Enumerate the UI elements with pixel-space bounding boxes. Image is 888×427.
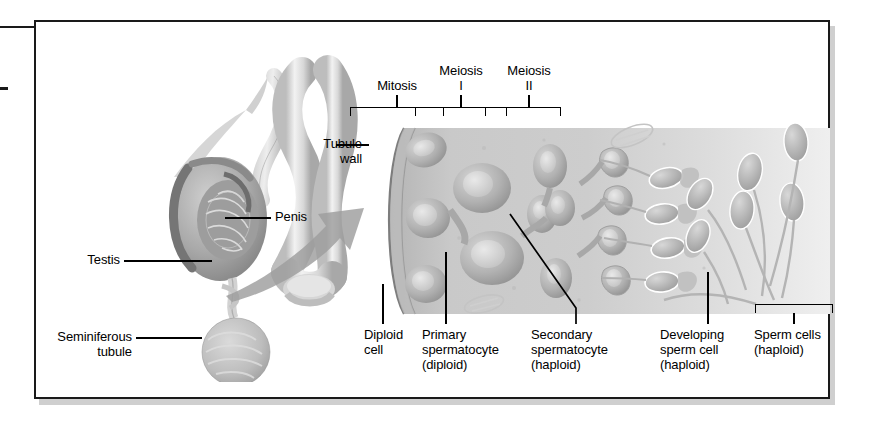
page-rule-horizontal bbox=[0, 26, 36, 28]
diploid-cells bbox=[401, 127, 451, 303]
seminiferous-tubule-leader-line bbox=[136, 337, 202, 339]
label-diploid-cell: Diploid cell bbox=[364, 327, 422, 357]
figure-frame: Penis Testis Seminiferous tubule bbox=[34, 20, 830, 399]
mitosis-bracket-stem bbox=[396, 95, 398, 107]
meiosis-ii-bracket-stem bbox=[528, 95, 530, 107]
secondary-spermatocyte-leader-line bbox=[506, 210, 604, 326]
primary-spermatocyte-leader-line bbox=[445, 252, 447, 324]
sperm-cells-bracket-stem bbox=[793, 313, 795, 324]
label-tubule-wall: Tubule wall bbox=[286, 136, 362, 166]
page-crop-tick bbox=[0, 87, 8, 90]
label-secondary-spermatocyte: Secondary spermatocyte (haploid) bbox=[531, 327, 631, 372]
label-testis: Testis bbox=[36, 252, 120, 267]
magnify-arrow bbox=[222, 192, 374, 302]
developing-sperm-cell-leader-line bbox=[707, 272, 709, 324]
sperm-cells-bracket bbox=[755, 304, 833, 313]
tubule-wall-leader-line bbox=[336, 144, 369, 146]
label-primary-spermatocyte: Primary spermatocyte (diploid) bbox=[422, 327, 518, 372]
diploid-cell-leader-line bbox=[382, 284, 384, 324]
meiosis-i-bracket-stem bbox=[460, 95, 462, 107]
meiosis-ii-bracket bbox=[485, 107, 561, 116]
label-developing-sperm-cell: Developing sperm cell (haploid) bbox=[660, 327, 752, 372]
figure-page: Penis Testis Seminiferous tubule bbox=[0, 0, 888, 427]
label-meiosis-ii: Meiosis II bbox=[485, 63, 573, 93]
label-sperm-cells: Sperm cells (haploid) bbox=[754, 327, 840, 357]
testis-leader-line bbox=[124, 260, 212, 262]
label-seminiferous-tubule: Seminiferous tubule bbox=[28, 329, 132, 359]
